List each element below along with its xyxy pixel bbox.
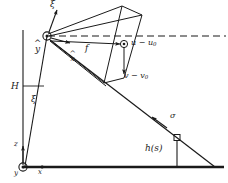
- principal-point-dot: [123, 43, 126, 46]
- image-u-offset-label: u − u0: [131, 39, 157, 48]
- image-v-offset-label: v − v0: [124, 72, 148, 81]
- frustum-ray-bottom-left-b: [50, 41, 106, 86]
- tilt-strut-line: [25, 36, 47, 166]
- world-y-axis-label: y: [14, 170, 18, 177]
- diagram-vector-layer: [0, 0, 228, 183]
- ray-direction-label: σ: [170, 112, 175, 120]
- camera-y-hat-axis-label: y: [35, 45, 40, 54]
- sigma-direction-arrow: [152, 117, 167, 128]
- world-x-axis-label: x: [38, 169, 42, 176]
- tilt-angle-label: ξ: [31, 95, 36, 104]
- figure-canvas: ξ y x f u − u0 v − v0 H ξ z x y σ h(s): [0, 0, 228, 183]
- camera-xi-axis-arrow: [49, 10, 57, 32]
- image-point-measure: [52, 40, 128, 74]
- world-z-axis-label: z: [14, 141, 18, 148]
- view-frustum-rays: [48, 6, 215, 167]
- frustum-ray-top-left: [48, 6, 122, 34]
- camera-mount-strut: [25, 36, 47, 166]
- camera-height-label: H: [11, 82, 19, 91]
- terrain-height-label: h(s): [145, 144, 162, 153]
- world-origin-out-of-plane-dot: [22, 166, 25, 169]
- camera-x-hat-axis-label: x: [70, 55, 75, 63]
- camera-xi-axis-label: ξ: [50, 0, 55, 9]
- frustum-ray-top-right: [49, 15, 142, 36]
- ray-direction-indicator: [152, 117, 167, 128]
- focal-length-label: f: [85, 44, 88, 53]
